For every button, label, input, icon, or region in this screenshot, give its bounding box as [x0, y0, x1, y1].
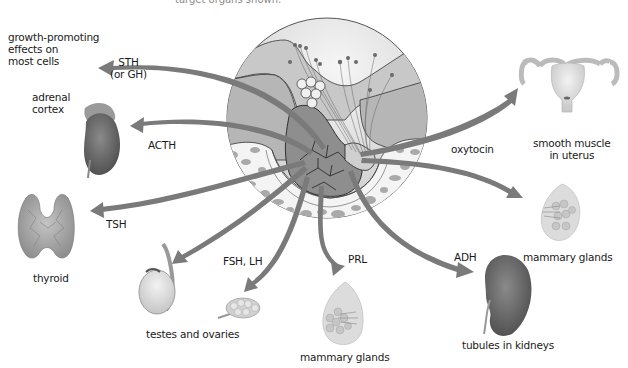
uterus-illustration	[521, 60, 617, 112]
target-growth-line-2: effects on	[8, 43, 99, 55]
target-gonads: testes and ovaries	[146, 328, 239, 340]
target-adrenal-line-1: adrenal	[32, 91, 70, 103]
thyroid-illustration	[18, 194, 74, 258]
target-adrenal-line-2: cortex	[32, 103, 70, 115]
hormone-sth-label: STH (or GH)	[110, 56, 147, 80]
target-mammary-right: mammary glands	[523, 251, 612, 263]
hormone-prl: PRL	[348, 253, 367, 265]
hormone-sth: STH	[110, 56, 147, 68]
target-thyroid: thyroid	[33, 272, 69, 284]
kidney-illustration	[484, 255, 531, 336]
mammary-gland-right-illustration	[541, 184, 579, 240]
target-growth-line-3: most cells	[8, 55, 99, 67]
hormone-sth-alt: (or GH)	[110, 68, 147, 80]
hormone-acth: ACTH	[148, 139, 176, 151]
hormone-adh: ADH	[454, 251, 477, 263]
target-growth-label: growth-promoting effects on most cells	[8, 31, 99, 67]
target-uterus-line-1: smooth muscle	[533, 137, 611, 149]
ovary-illustration	[218, 298, 260, 318]
target-kidney: tubules in kidneys	[462, 339, 554, 351]
pituitary-cross-section	[220, 18, 430, 230]
target-growth-line-1: growth-promoting	[8, 31, 99, 43]
adrenal-kidney-illustration	[84, 103, 120, 178]
mammary-gland-bottom-illustration	[323, 282, 363, 345]
hormone-oxytocin: oxytocin	[451, 143, 494, 155]
testis-illustration	[139, 244, 175, 314]
target-adrenal-label: adrenal cortex	[32, 91, 70, 115]
hormone-fsh-lh: FSH, LH	[223, 255, 262, 267]
target-mammary-bottom: mammary glands	[300, 351, 389, 363]
hormone-tsh: TSH	[106, 218, 126, 230]
target-uterus-line-2: in uterus	[533, 149, 611, 161]
target-uterus-label: smooth muscle in uterus	[533, 137, 611, 161]
